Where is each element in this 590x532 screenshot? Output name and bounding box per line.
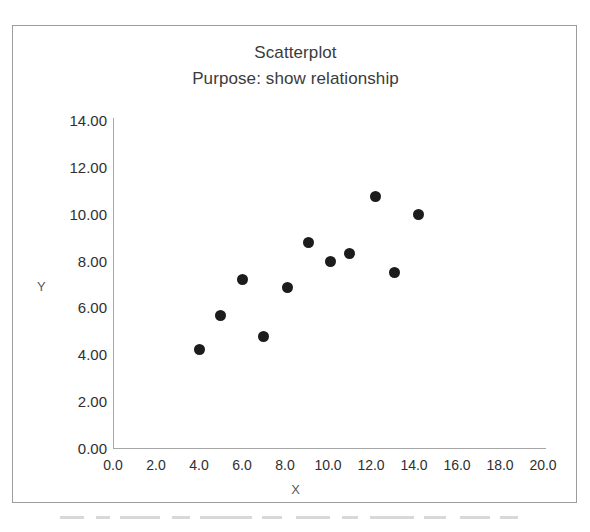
x-axis-tick-label: 10.0 bbox=[314, 457, 341, 473]
y-axis-tick-label: 6.00 bbox=[35, 299, 107, 316]
x-axis-tick-label: 18.0 bbox=[486, 457, 513, 473]
scan-speck bbox=[60, 516, 84, 519]
scan-speck bbox=[262, 516, 282, 519]
y-axis-tick-label: 10.00 bbox=[35, 205, 107, 222]
scan-speck bbox=[200, 516, 252, 519]
scatter-point bbox=[370, 191, 381, 202]
x-axis-tick-label: 16.0 bbox=[443, 457, 470, 473]
scan-speck bbox=[172, 516, 190, 519]
scan-speck bbox=[342, 516, 358, 519]
scatter-point bbox=[303, 237, 314, 248]
screenshot-page: Scatterplot Purpose: show relationship 0… bbox=[0, 0, 590, 532]
y-axis-title: Y bbox=[37, 279, 46, 294]
scatter-point bbox=[237, 274, 248, 285]
scan-speck bbox=[500, 516, 518, 519]
y-axis-tick-label: 8.00 bbox=[35, 252, 107, 269]
x-axis-tick-label: 8.0 bbox=[275, 457, 294, 473]
scan-speck bbox=[424, 516, 446, 519]
scan-artifact-strip bbox=[0, 506, 590, 532]
x-axis-tick-label: 0.0 bbox=[103, 457, 122, 473]
x-axis-tick-label: 12.0 bbox=[357, 457, 384, 473]
y-axis-tick-label: 14.00 bbox=[35, 111, 107, 128]
scan-speck bbox=[120, 516, 160, 519]
y-axis-tick-label: 4.00 bbox=[35, 346, 107, 363]
scan-speck bbox=[296, 516, 330, 519]
x-axis-tick-label: 20.0 bbox=[529, 457, 556, 473]
chart-frame: Scatterplot Purpose: show relationship 0… bbox=[12, 25, 577, 503]
y-axis-tick-labels: 0.002.004.006.008.0010.0012.0014.00 bbox=[29, 26, 107, 504]
y-axis-tick-label: 12.00 bbox=[35, 158, 107, 175]
scatter-point bbox=[215, 310, 226, 321]
x-axis-title: X bbox=[13, 482, 578, 497]
scan-speck bbox=[460, 516, 490, 519]
scatter-point bbox=[258, 331, 269, 342]
scatter-point bbox=[194, 344, 205, 355]
x-axis-line bbox=[113, 448, 546, 449]
scatter-point bbox=[282, 282, 293, 293]
y-axis-tick-label: 2.00 bbox=[35, 393, 107, 410]
scatter-point bbox=[389, 267, 400, 278]
y-axis-tick-label: 0.00 bbox=[35, 440, 107, 457]
scatter-point bbox=[325, 256, 336, 267]
plot-area bbox=[113, 120, 544, 448]
x-axis-tick-label: 6.0 bbox=[232, 457, 251, 473]
x-axis-tick-label: 14.0 bbox=[400, 457, 427, 473]
scatter-point bbox=[413, 209, 424, 220]
scatter-point bbox=[344, 248, 355, 259]
x-axis-tick-label: 2.0 bbox=[146, 457, 165, 473]
x-axis-tick-label: 4.0 bbox=[189, 457, 208, 473]
scan-speck bbox=[96, 516, 110, 519]
scan-speck bbox=[370, 516, 414, 519]
